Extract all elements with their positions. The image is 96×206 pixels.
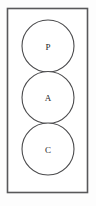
circle-group-p: P [22,20,74,72]
diagram-canvas: P A C [0,0,96,206]
circle-group-c: C [22,123,74,175]
stacked-circles-diagram: P A C [0,0,96,206]
circle-label-p: P [45,42,50,52]
circle-group-a: A [22,72,74,124]
circle-label-a: A [45,93,52,103]
circle-label-c: C [45,145,51,155]
